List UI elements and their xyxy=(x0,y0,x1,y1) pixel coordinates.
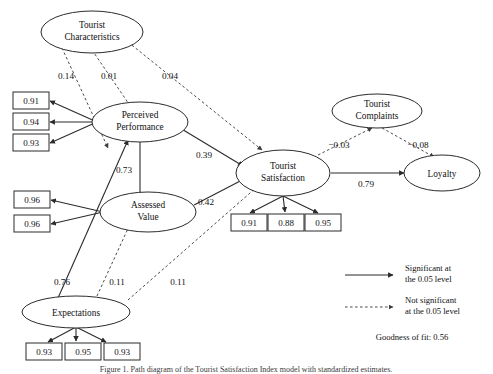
indicator-value-ts-2: 0.88 xyxy=(278,218,294,228)
node-label-tourist-characteristics-line1: Tourist xyxy=(79,20,106,30)
indicator-value-exp-1: 0.93 xyxy=(36,347,52,357)
coef-label-tc-to-pp-mid: 0.01 xyxy=(101,71,117,81)
coef-label-ts-to-tcomp: −0.03 xyxy=(328,140,350,150)
indicator-box-ts-1[interactable]: 0.91 xyxy=(231,214,267,231)
coef-label-exp-to-pp: 0.76 xyxy=(54,277,70,287)
node-label-tourist-complaints-line1: Tourist xyxy=(364,99,391,109)
node-label-expectations: Expectations xyxy=(52,308,100,318)
indicator-value-pp-1: 0.91 xyxy=(23,96,39,106)
node-label-tourist-characteristics-line2: Characteristics xyxy=(64,32,120,42)
node-label-assessed-value-line1: Assessed xyxy=(131,200,165,210)
indicator-value-pp-3: 0.93 xyxy=(23,138,39,148)
indicator-box-exp-1[interactable]: 0.93 xyxy=(26,343,62,360)
indicator-value-ts-1: 0.91 xyxy=(241,218,257,228)
figure-caption: Figure 1. Path diagram of the Tourist Sa… xyxy=(100,365,393,374)
node-loyalty[interactable]: Loyalty xyxy=(404,155,480,191)
indicator-box-pp-3[interactable]: 0.93 xyxy=(13,134,49,151)
indicator-value-exp-2: 0.95 xyxy=(75,347,91,357)
sem-path-diagram: Tourist Characteristics Perceived Perfor… xyxy=(0,0,493,374)
legend-item-significant: Significant at the 0.05 level xyxy=(345,263,452,284)
indicator-value-av-2: 0.96 xyxy=(24,219,40,229)
indicator-box-pp-1[interactable]: 0.91 xyxy=(13,92,49,109)
coef-label-av-to-ts: 0.42 xyxy=(198,197,214,207)
indicator-box-av-1[interactable]: 0.96 xyxy=(14,191,50,208)
indicator-box-av-2[interactable]: 0.96 xyxy=(14,215,50,232)
loading-ts-2 xyxy=(283,196,285,212)
node-label-tourist-complaints-line2: Complaints xyxy=(356,111,399,121)
coef-label-exp-to-av: 0.11 xyxy=(109,277,125,287)
node-perceived-performance[interactable]: Perceived Performance xyxy=(92,102,188,142)
coef-label-exp-to-ts: 0.11 xyxy=(170,277,186,287)
loading-exp-3 xyxy=(76,327,106,342)
coef-label-pp-to-av: 0.73 xyxy=(116,165,132,175)
node-label-perceived-performance-line1: Perceived xyxy=(122,110,159,120)
legend-item-not-significant: Not significant at the 0.05 level xyxy=(345,295,460,316)
loading-pp-1 xyxy=(50,101,97,122)
legend-not-significant-line2: at the 0.05 level xyxy=(405,306,460,316)
node-tourist-satisfaction[interactable]: Tourist Satisfaction xyxy=(236,150,330,196)
node-label-perceived-performance-line2: Performance xyxy=(116,122,164,132)
indicator-value-exp-3: 0.93 xyxy=(114,347,130,357)
loading-av-1 xyxy=(51,200,103,212)
indicator-value-pp-2: 0.94 xyxy=(23,117,39,127)
loading-ts-3 xyxy=(283,196,318,213)
node-tourist-characteristics[interactable]: Tourist Characteristics xyxy=(41,11,143,53)
node-assessed-value[interactable]: Assessed Value xyxy=(100,192,196,232)
legend: Significant at the 0.05 level Not signif… xyxy=(345,263,460,342)
indicator-value-av-1: 0.96 xyxy=(24,195,40,205)
node-tourist-complaints[interactable]: Tourist Complaints xyxy=(332,94,422,128)
indicator-box-exp-2[interactable]: 0.95 xyxy=(65,343,101,360)
indicator-value-ts-3: 0.95 xyxy=(315,218,331,228)
indicator-box-ts-2[interactable]: 0.88 xyxy=(268,214,304,231)
loading-pp-3 xyxy=(50,122,97,143)
node-label-tourist-satisfaction-line2: Satisfaction xyxy=(261,173,305,183)
coef-label-tc-to-ts: 0.04 xyxy=(162,71,178,81)
loading-exp-1 xyxy=(48,327,76,342)
loading-ts-1 xyxy=(250,196,283,213)
coef-label-ts-to-loy: 0.79 xyxy=(358,179,374,189)
coef-label-tcomp-to-loy: −0.08 xyxy=(407,140,429,150)
legend-significant-line2: the 0.05 level xyxy=(405,274,452,284)
diagram-canvas: Tourist Characteristics Perceived Perfor… xyxy=(0,0,493,374)
indicator-box-exp-3[interactable]: 0.93 xyxy=(104,343,140,360)
indicator-box-ts-3[interactable]: 0.95 xyxy=(305,214,341,231)
coef-label-pp-to-ts: 0.39 xyxy=(196,150,212,160)
legend-not-significant-line1: Not significant xyxy=(405,295,457,305)
node-label-assessed-value-line2: Value xyxy=(137,212,158,222)
legend-significant-line1: Significant at xyxy=(405,263,452,273)
path-pp-to-ts xyxy=(180,128,243,166)
indicator-box-pp-2[interactable]: 0.94 xyxy=(13,113,49,130)
loading-av-2 xyxy=(51,212,103,224)
coef-label-tc-to-pp-left: 0.14 xyxy=(58,71,74,81)
node-label-tourist-satisfaction-line1: Tourist xyxy=(270,161,297,171)
node-expectations[interactable]: Expectations xyxy=(22,296,130,328)
node-label-loyalty: Loyalty xyxy=(428,169,457,179)
goodness-of-fit-text: Goodness of fit: 0.56 xyxy=(376,332,449,342)
